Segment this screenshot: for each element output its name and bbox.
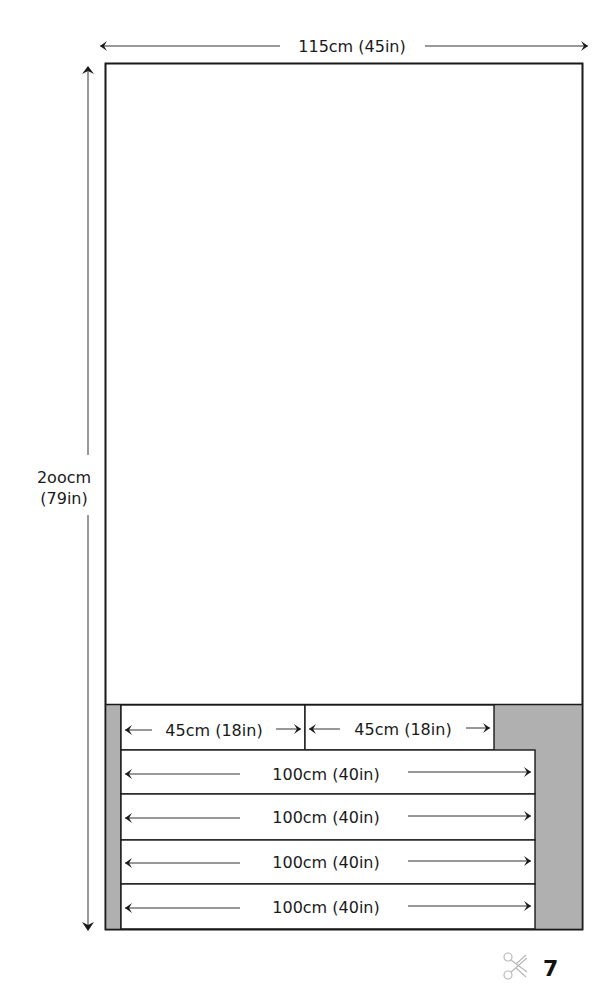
page-number: 7: [543, 956, 558, 981]
piece-row-5: 100cm (40in): [121, 884, 535, 929]
width-dimension: 115cm (45in): [100, 37, 588, 56]
width-label: 115cm (45in): [298, 37, 405, 56]
waste-strip-left: [106, 705, 121, 929]
cutting-layout-diagram: 115cm (45in) 2oocm (79in) 45cm (18in) 45…: [0, 0, 614, 995]
length-label-in: (79in): [40, 489, 87, 508]
piece-label: 100cm (40in): [272, 808, 379, 827]
piece-row-3: 100cm (40in): [121, 794, 535, 840]
piece-label: 100cm (40in): [272, 898, 379, 917]
piece-label: 45cm (18in): [165, 721, 262, 740]
piece-row-1: 45cm (18in) 45cm (18in): [121, 705, 494, 750]
piece-label: 45cm (18in): [354, 720, 451, 739]
length-label-cm: 2oocm: [37, 468, 91, 487]
piece-row-2: 100cm (40in): [121, 750, 535, 794]
length-dimension: 2oocm (79in): [37, 66, 94, 931]
scissors-icon: [504, 953, 527, 979]
piece-label: 100cm (40in): [272, 853, 379, 872]
piece-row-4: 100cm (40in): [121, 840, 535, 884]
piece-label: 100cm (40in): [272, 765, 379, 784]
